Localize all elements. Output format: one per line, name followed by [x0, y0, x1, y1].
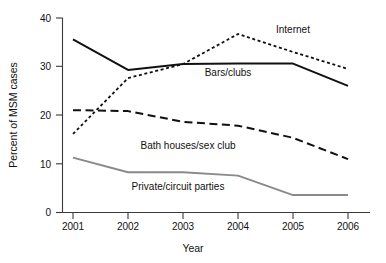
series-label-bath-houses: Bath houses/sex club — [140, 140, 235, 151]
series-label-internet: Internet — [276, 24, 310, 35]
y-tick-label-10: 10 — [40, 159, 52, 170]
x-axis-title: Year — [182, 242, 204, 254]
line-chart-canvas: 0 10 20 30 40 2001 2002 2003 2004 2005 2… — [0, 0, 386, 263]
series-label-private-parties: Private/circuit parties — [132, 181, 225, 192]
y-tick-label-30: 30 — [40, 61, 52, 72]
x-tick-label-2006: 2006 — [337, 221, 360, 232]
series-label-bars-clubs: Bars/clubs — [205, 67, 252, 78]
x-tick-label-2005: 2005 — [282, 221, 305, 232]
x-tick-label-2001: 2001 — [62, 221, 85, 232]
y-tick-label-40: 40 — [40, 13, 52, 24]
y-tick-label-20: 20 — [40, 110, 52, 121]
y-tick-label-0: 0 — [45, 207, 51, 218]
y-axis-title: Percent of MSM cases — [7, 62, 19, 168]
x-tick-label-2003: 2003 — [172, 221, 195, 232]
x-tick-label-2004: 2004 — [227, 221, 250, 232]
chart-figure: 0 10 20 30 40 2001 2002 2003 2004 2005 2… — [0, 0, 386, 263]
x-tick-label-2002: 2002 — [117, 221, 140, 232]
